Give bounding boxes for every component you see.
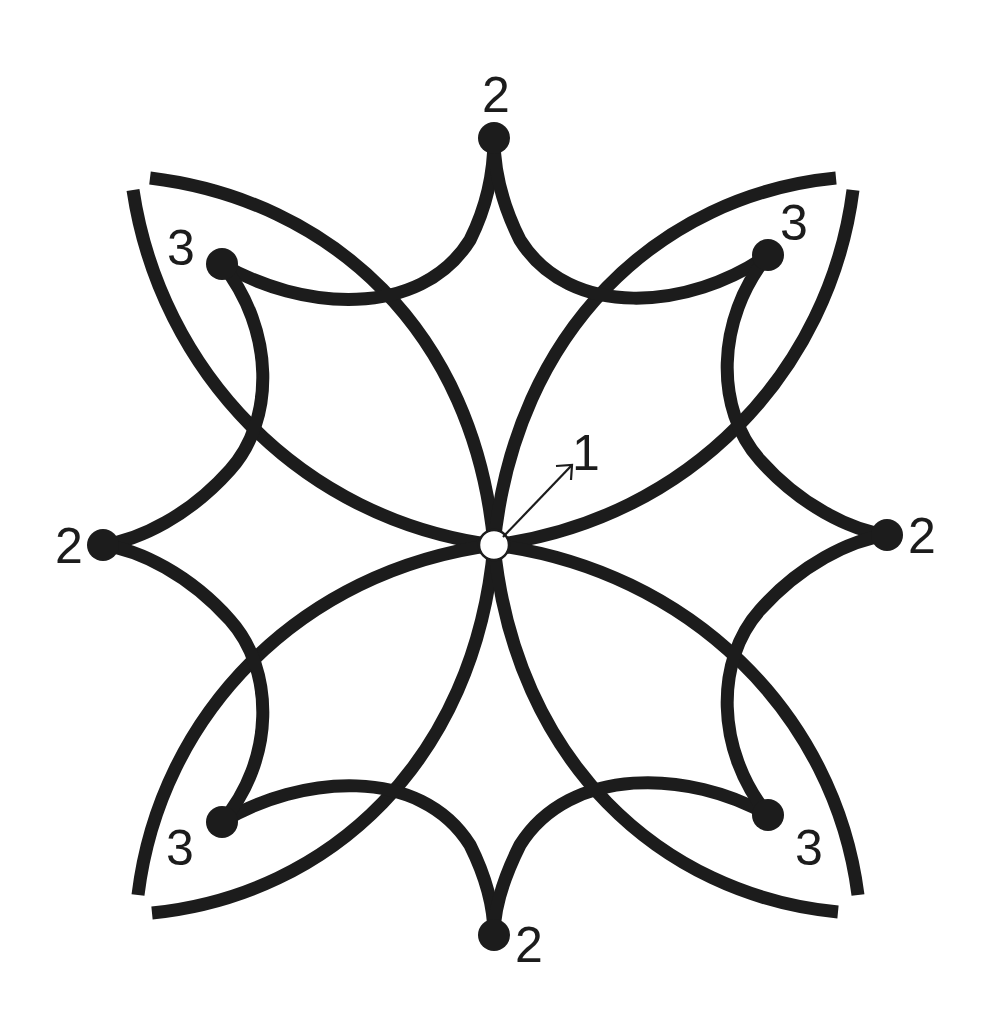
label-top-right-3: 3	[780, 195, 808, 251]
dot-bottom-right-3	[752, 799, 784, 831]
dot-left-2	[87, 529, 119, 561]
label-bottom-2: 2	[515, 917, 543, 973]
label-bottom-left-3: 3	[166, 820, 194, 876]
label-top-2: 2	[482, 67, 510, 123]
dot-bottom-left-3	[206, 806, 238, 838]
dot-right-2	[871, 519, 903, 551]
rosette-diagram: 1 2 2 2 2 3 3 3 3	[0, 0, 996, 1024]
dot-top-2	[478, 122, 510, 154]
label-left-2: 2	[55, 518, 83, 574]
arc-tl3-to-top2	[222, 138, 494, 299]
arc-bl3-to-bottom2	[222, 786, 494, 935]
dot-bottom-2	[478, 919, 510, 951]
arc-tr3-to-right2	[727, 255, 887, 535]
label-center-1: 1	[572, 425, 600, 481]
label-bottom-right-3: 3	[795, 820, 823, 876]
dot-top-left-3	[206, 248, 238, 280]
label-top-left-3: 3	[167, 220, 195, 276]
label-right-2: 2	[908, 508, 936, 564]
arc-br3-to-bottom2	[494, 783, 768, 935]
arc-tr3-to-top2	[494, 138, 768, 298]
